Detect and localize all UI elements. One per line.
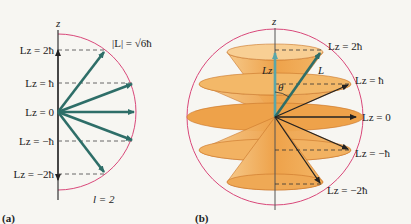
level-label-m1: Lz = ħ [25, 77, 54, 89]
angular-momentum-figure: z Lz = 2ħ Lz = ħ Lz = 0 Lz = −ħ Lz = −2ħ… [0, 0, 411, 224]
panel-a-label: (a) [2, 212, 15, 224]
level-label-mneg2: Lz = −2ħ [13, 168, 54, 180]
axis-label: z [55, 17, 61, 29]
level-label-m1: Lz = ħ [355, 74, 384, 86]
magnitude-label: |L| = √6ħ [112, 37, 152, 49]
vector-label: L [317, 64, 324, 76]
l-vectors [58, 52, 134, 172]
level-label-m2: Lz = 2ħ [328, 40, 363, 52]
panel-b: z Lz L θ Lz = 2ħ Lz = ħ Lz = 0 Lz = −ħ L… [187, 15, 391, 224]
quantum-number-label: l = 2 [93, 193, 115, 205]
panel-b-label: (b) [195, 212, 209, 224]
level-label-mneg1: Lz = −ħ [355, 147, 391, 159]
panel-a: z Lz = 2ħ Lz = ħ Lz = 0 Lz = −ħ Lz = −2ħ… [2, 17, 152, 224]
level-label-m0: Lz = 0 [25, 106, 54, 118]
component-label: Lz [261, 64, 273, 76]
angle-label: θ [278, 81, 284, 93]
level-label-m2: Lz = 2ħ [20, 44, 55, 56]
level-label-mneg2: Lz = −2ħ [327, 184, 368, 196]
level-label-m0: Lz = 0 [362, 111, 391, 123]
level-label-mneg1: Lz = −ħ [19, 135, 55, 147]
axis-label: z [271, 15, 277, 27]
